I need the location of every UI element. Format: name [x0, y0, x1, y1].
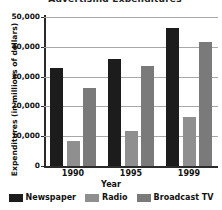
- legend-swatch-icon: [9, 194, 23, 202]
- chart-legend: NewspaperRadioBroadcast TV: [0, 193, 222, 202]
- bar-newspaper-1995: [108, 59, 121, 166]
- legend-label: Radio: [102, 193, 128, 202]
- x-axis-line: [44, 166, 218, 168]
- bar-broadcast-tv-1995: [141, 66, 154, 166]
- gridline: [44, 17, 218, 18]
- x-axis-tick-label: 1990: [62, 169, 84, 178]
- bar-broadcast-tv-1999: [199, 42, 212, 166]
- bar-newspaper-1990: [50, 68, 63, 166]
- x-axis-tick-label: 1995: [120, 169, 142, 178]
- y-axis-tick-label: 20,000: [11, 103, 40, 110]
- gridline: [44, 106, 218, 107]
- y-axis-tick-mark: [41, 136, 44, 137]
- gridline: [44, 77, 218, 78]
- legend-label: Broadcast TV: [154, 193, 214, 202]
- y-axis-tick-mark: [41, 166, 44, 167]
- legend-swatch-icon: [85, 194, 99, 202]
- y-axis-tick-label: 0: [35, 162, 40, 169]
- bar-newspaper-1999: [166, 28, 179, 166]
- y-axis-tick-mark: [41, 17, 44, 18]
- legend-item-radio: Radio: [85, 193, 128, 202]
- legend-label: Newspaper: [26, 193, 77, 202]
- bar-radio-1995: [125, 131, 138, 166]
- gridline: [44, 47, 218, 48]
- y-axis-tick-label: 50,000: [11, 13, 40, 20]
- legend-item-broadcast-tv: Broadcast TV: [137, 193, 214, 202]
- plot-area: 010,00020,00030,00040,00050,000: [44, 17, 218, 166]
- x-axis-tick-label: 1999: [178, 169, 200, 178]
- legend-item-newspaper: Newspaper: [9, 193, 77, 202]
- y-axis-tick-label: 10,000: [11, 132, 40, 139]
- y-axis-tick-mark: [41, 47, 44, 48]
- x-axis-title: Year: [0, 180, 222, 189]
- y-axis-tick-mark: [41, 106, 44, 107]
- bar-broadcast-tv-1990: [83, 88, 96, 166]
- bar-radio-1990: [67, 141, 80, 166]
- y-axis-tick-mark: [41, 77, 44, 78]
- legend-swatch-icon: [137, 194, 151, 202]
- bar-chart: Advertising Expenditures Expenditures (i…: [0, 0, 222, 210]
- bar-radio-1999: [183, 117, 196, 166]
- chart-title-cropped: Advertising Expenditures: [40, 0, 190, 2]
- y-axis-tick-label: 30,000: [11, 73, 40, 80]
- y-axis-tick-label: 40,000: [11, 43, 40, 50]
